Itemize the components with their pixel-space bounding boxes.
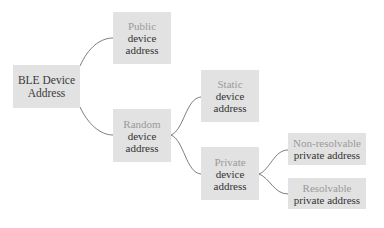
node-label-line2: Address — [28, 87, 66, 100]
edge-random-private — [171, 135, 201, 174]
node-label-line2: private address — [294, 149, 360, 161]
edge-root-public — [80, 38, 113, 66]
node-label-line1: BLE Device — [18, 74, 75, 87]
node-label-line2: device — [128, 130, 157, 142]
edge-private-nonresolvable — [259, 150, 288, 174]
node-label-line3: address — [214, 102, 247, 114]
node-label-line3: address — [126, 142, 159, 154]
node-label-line3: address — [214, 180, 247, 192]
node-label-line3: address — [126, 44, 159, 56]
node-label-line2: device — [128, 32, 157, 44]
edge-private-resolvable — [259, 174, 288, 194]
node-label-line1: Private — [214, 156, 245, 168]
edge-random-static — [171, 97, 201, 135]
node-static-device-address: Static device address — [201, 70, 259, 122]
node-public-device-address: Public device address — [113, 12, 171, 64]
node-non-resolvable-private-address: Non-resolvable private address — [288, 133, 366, 165]
node-label-line2: device — [216, 90, 245, 102]
node-label-line1: Non-resolvable — [293, 137, 361, 149]
node-private-device-address: Private device address — [201, 147, 259, 200]
node-random-device-address: Random device address — [113, 109, 171, 162]
ble-address-diagram: BLE Device Address Public device address… — [0, 0, 384, 228]
node-label-line1: Resolvable — [303, 182, 352, 194]
node-resolvable-private-address: Resolvable private address — [288, 178, 366, 209]
node-label-line2: device — [216, 168, 245, 180]
node-label-line1: Static — [217, 78, 242, 90]
node-label-line1: Random — [123, 118, 160, 130]
edge-root-random — [80, 107, 113, 135]
node-label-line2: private address — [294, 194, 360, 206]
node-ble-device-address: BLE Device Address — [13, 65, 80, 108]
node-label-line1: Public — [128, 20, 156, 32]
